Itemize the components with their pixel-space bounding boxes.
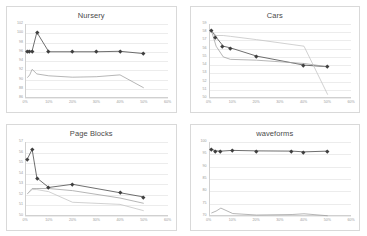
y-axis-tick-label: 100	[17, 31, 23, 35]
chart-panel-waveforms: waveforms 7075808590951000%10%20%30%40%5…	[184, 118, 367, 236]
x-axis-tick-label: 30%	[276, 219, 283, 223]
y-axis-tick-label: 54	[19, 172, 23, 176]
x-axis-tick-label: 50%	[324, 101, 331, 105]
x-axis-tick-label: 0%	[206, 219, 211, 223]
y-axis-tick-label: 53	[19, 182, 23, 186]
chart-panel-nursery: Nursery 868890929496981001020%10%20%30%4…	[0, 0, 184, 118]
x-axis-tick-label: 60%	[164, 101, 171, 105]
series-line	[211, 149, 327, 151]
panel-frame: Nursery 868890929496981001020%10%20%30%4…	[6, 6, 177, 113]
y-axis-tick-label: 56	[203, 47, 207, 51]
x-axis-tick-label: 40%	[300, 219, 307, 223]
plot-area: 505152535455565758590%10%20%30%40%50%60%	[209, 24, 352, 98]
x-axis-tick-label: 20%	[69, 219, 76, 223]
chart-title: Cars	[191, 11, 360, 20]
x-axis-tick-label: 0%	[22, 219, 27, 223]
y-axis-tick-label: 90	[203, 165, 207, 169]
x-axis-tick-label: 60%	[347, 219, 354, 223]
x-axis-tick-label: 40%	[116, 219, 123, 223]
series-line	[211, 208, 327, 216]
y-axis-tick-label: 58	[203, 30, 207, 34]
y-axis-tick-label: 88	[19, 87, 23, 91]
x-axis-tick-label: 30%	[93, 219, 100, 223]
x-axis-tick-label: 10%	[45, 219, 52, 223]
x-axis-tick-label: 50%	[140, 219, 147, 223]
data-point-marker	[228, 46, 232, 50]
y-axis-tick-label: 80	[203, 190, 207, 194]
y-axis-tick-label: 56	[19, 151, 23, 155]
y-axis-tick-label: 75	[203, 202, 207, 206]
y-axis-tick-label: 102	[17, 22, 23, 26]
series-line	[27, 149, 143, 197]
y-axis-tick-label: 52	[203, 80, 207, 84]
y-axis-tick-label: 53	[203, 72, 207, 76]
y-axis-tick-label: 92	[19, 68, 23, 72]
chart-grid: Nursery 868890929496981001020%10%20%30%4…	[0, 0, 367, 236]
x-axis-tick-label: 20%	[252, 219, 259, 223]
x-axis-tick-label: 0%	[22, 101, 27, 105]
chart-panel-cars: Cars 505152535455565758590%10%20%30%40%5…	[184, 0, 367, 118]
x-axis-tick-label: 40%	[300, 101, 307, 105]
series-layer	[25, 24, 168, 98]
y-axis-tick-label: 98	[19, 41, 23, 45]
x-axis-tick-label: 10%	[229, 219, 236, 223]
x-axis-tick-label: 30%	[276, 101, 283, 105]
series-line	[27, 69, 143, 88]
x-axis-tick-label: 50%	[140, 101, 147, 105]
series-line	[211, 31, 327, 95]
y-axis-tick-label: 59	[203, 22, 207, 26]
plot-area: 50515253545556570%10%20%30%40%50%60%	[25, 142, 168, 216]
y-axis-tick-label: 52	[19, 193, 23, 197]
y-axis-tick-label: 96	[19, 50, 23, 54]
chart-title: waveforms	[191, 129, 360, 138]
series-line	[27, 32, 143, 53]
x-axis-tick-label: 60%	[347, 101, 354, 105]
y-axis-tick-label: 85	[203, 177, 207, 181]
y-axis-tick-label: 57	[19, 140, 23, 144]
panel-frame: Cars 505152535455565758590%10%20%30%40%5…	[190, 6, 361, 113]
chart-panel-page-blocks: Page Blocks 50515253545556570%10%20%30%4…	[0, 118, 184, 236]
x-axis-tick-label: 40%	[116, 101, 123, 105]
chart-title: Nursery	[7, 11, 176, 20]
y-axis-tick-label: 55	[19, 161, 23, 165]
data-point-marker	[35, 176, 39, 180]
panel-frame: Page Blocks 50515253545556570%10%20%30%4…	[6, 124, 177, 231]
x-axis-tick-label: 10%	[229, 101, 236, 105]
x-axis-tick-label: 20%	[252, 101, 259, 105]
y-axis-tick-label: 55	[203, 55, 207, 59]
series-layer	[209, 142, 352, 216]
series-layer	[25, 142, 168, 216]
series-layer	[209, 24, 352, 98]
y-axis-tick-label: 95	[203, 153, 207, 157]
chart-title: Page Blocks	[7, 129, 176, 138]
x-axis-tick-label: 0%	[206, 101, 211, 105]
x-axis-tick-label: 30%	[93, 101, 100, 105]
y-axis-tick-label: 100	[201, 140, 207, 144]
y-axis-tick-label: 51	[19, 204, 23, 208]
y-axis-tick-label: 57	[203, 39, 207, 43]
x-axis-tick-label: 50%	[324, 219, 331, 223]
y-axis-tick-label: 51	[203, 88, 207, 92]
y-axis-tick-label: 94	[19, 59, 23, 63]
y-axis-tick-label: 54	[203, 63, 207, 67]
plot-area: 7075808590951000%10%20%30%40%50%60%	[209, 142, 352, 216]
plot-area: 868890929496981001020%10%20%30%40%50%60%	[25, 24, 168, 98]
y-axis-tick-label: 90	[19, 78, 23, 82]
x-axis-tick-label: 60%	[164, 219, 171, 223]
x-axis-tick-label: 10%	[45, 101, 52, 105]
x-axis-tick-label: 20%	[69, 101, 76, 105]
panel-frame: waveforms 7075808590951000%10%20%30%40%5…	[190, 124, 361, 231]
